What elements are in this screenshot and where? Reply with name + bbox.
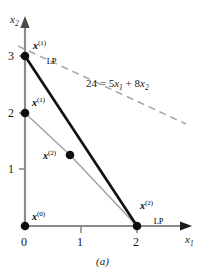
x-axis-arrowhead — [180, 221, 192, 230]
point-label-x2lp: x(2)LP — [140, 200, 153, 211]
point-label-x1-superscript: (1) — [37, 96, 45, 104]
point-label-x0: x(0) — [32, 211, 45, 222]
figure-caption: (a) — [96, 256, 109, 267]
x-axis-label: x1 — [185, 234, 194, 248]
y-axis-label-sub: 2 — [15, 19, 19, 28]
x-tick-label-2: 2 — [133, 236, 139, 248]
point-label-x1lp: x(1)LP — [33, 40, 46, 51]
y-tick-label-3: 3 — [8, 50, 14, 62]
point-marker-x1 — [21, 109, 30, 118]
point-label-x1lp-superscript: (1) — [38, 39, 46, 47]
y-tick-label-2: 2 — [8, 107, 14, 119]
x-tick-label-1: 1 — [77, 236, 83, 248]
y-tick-label-1: 1 — [8, 163, 14, 175]
point-label-x1lp-subscript: LP — [47, 57, 57, 66]
y-axis-arrowhead — [20, 16, 29, 28]
point-marker-x2lp — [133, 222, 142, 231]
x-axis-label-sub: 1 — [190, 239, 194, 248]
point-marker-x0 — [21, 222, 30, 231]
point-label-x2lp-subscript: LP — [154, 217, 164, 226]
point-label-x2-superscript: (2) — [48, 149, 56, 157]
objective-equation-prefix: 24 = 5 — [86, 77, 114, 89]
point-label-x0-superscript: (0) — [37, 210, 45, 218]
figure-panel: x2 x1 3 2 1 0 1 2 x(1)LP x(1) x(2) x(0) … — [0, 0, 214, 277]
objective-equation-label: 24 = 5x1 + 8x2 — [86, 78, 149, 92]
objective-equation-var2-sub: 2 — [145, 83, 149, 92]
y-axis-label: x2 — [10, 14, 19, 28]
point-label-x2: x(2) — [43, 150, 56, 161]
x-tick-label-0: 0 — [21, 236, 27, 248]
objective-equation-middle: + 8 — [123, 77, 140, 89]
point-label-x2lp-superscript: (2) — [145, 199, 153, 207]
point-label-x1: x(1) — [32, 97, 45, 108]
point-marker-x2 — [66, 151, 75, 160]
point-marker-x1lp — [21, 52, 30, 61]
